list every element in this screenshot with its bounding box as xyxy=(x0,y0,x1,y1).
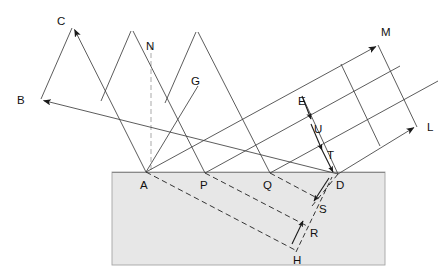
incident-ray-to-A xyxy=(75,30,147,173)
label-P: P xyxy=(200,179,208,191)
incident-wavefronts-group xyxy=(41,28,198,172)
label-S: S xyxy=(319,203,327,215)
reflected-ray-Q-up xyxy=(270,81,438,173)
diagram-canvas: C B N G M E U L T A P Q D S R H xyxy=(0,0,448,277)
label-N: N xyxy=(146,40,154,52)
label-U: U xyxy=(314,123,322,135)
label-H: H xyxy=(293,254,301,266)
label-C: C xyxy=(57,15,65,27)
label-E: E xyxy=(298,95,306,107)
label-L: L xyxy=(427,121,434,133)
label-R: R xyxy=(310,227,318,239)
reflected-ray-D-to-L xyxy=(338,128,414,175)
reflected-rays-group xyxy=(146,47,438,175)
label-A: A xyxy=(140,179,148,191)
optics-diagram: C B N G M E U L T A P Q D S R H xyxy=(0,0,448,277)
label-Q: Q xyxy=(263,179,272,191)
incident-wavefront-3 xyxy=(165,32,196,103)
label-M: M xyxy=(381,26,391,38)
label-B: B xyxy=(17,94,25,106)
label-D: D xyxy=(336,179,344,191)
reflected-wavefront-M-L xyxy=(378,45,417,127)
incident-wavefront-G-A xyxy=(146,86,198,172)
incident-rays-group xyxy=(44,30,339,175)
reflected-ray-P-up xyxy=(205,66,400,173)
incident-ray-to-P xyxy=(133,31,205,173)
reflected-wavefront-mid-1 xyxy=(341,64,380,146)
label-T: T xyxy=(327,149,334,161)
incident-wavefront-2 xyxy=(101,31,131,101)
incident-wavefront-C-B xyxy=(41,28,72,99)
label-G: G xyxy=(191,75,200,87)
incident-ray-to-Q xyxy=(198,32,270,173)
incident-ray-to-D xyxy=(44,101,339,175)
